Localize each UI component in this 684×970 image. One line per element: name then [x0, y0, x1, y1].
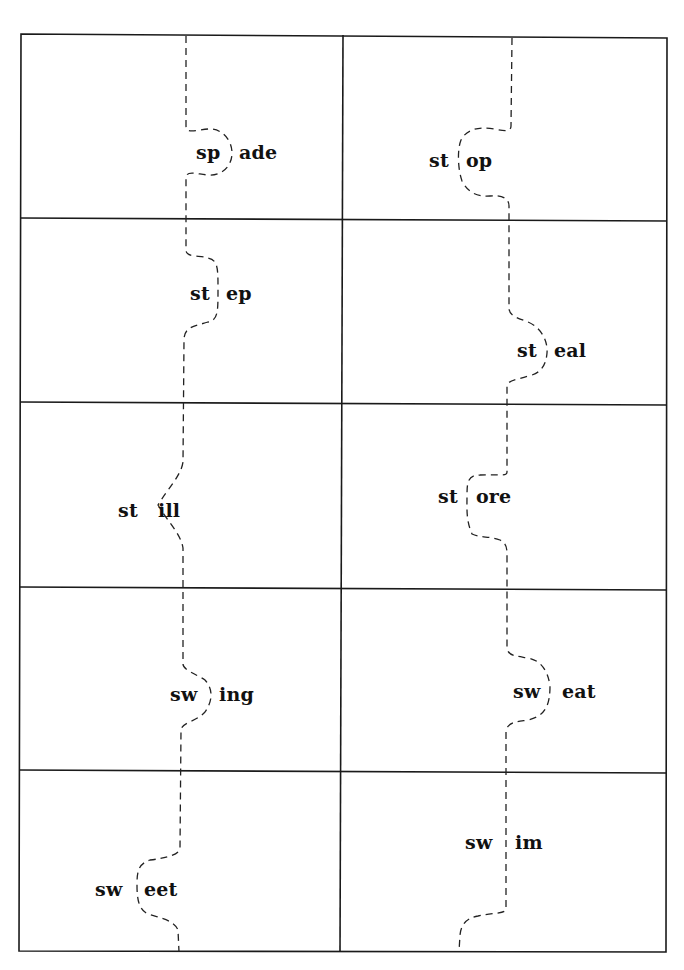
cut-line-left	[137, 36, 232, 952]
card-blend: st	[118, 501, 138, 520]
row-divider-3	[20, 587, 666, 590]
row-divider-1	[21, 218, 667, 221]
row-divider-2	[20, 402, 667, 405]
card-blend: st	[190, 284, 210, 303]
card-ending: eat	[562, 682, 596, 701]
card-ending: op	[466, 151, 492, 170]
card-ending: eal	[554, 341, 586, 360]
card-blend: sw	[513, 682, 540, 701]
card-ending: ill	[158, 501, 180, 520]
card-ending: eet	[144, 880, 178, 899]
card-blend: sw	[465, 833, 492, 852]
row-divider-4	[19, 770, 666, 773]
card-ending: ing	[219, 685, 254, 704]
card-blend: st	[429, 151, 449, 170]
card-ending: ep	[226, 284, 252, 303]
worksheet-grid	[0, 0, 684, 970]
card-ending: ade	[239, 143, 277, 162]
card-blend: sw	[95, 880, 122, 899]
card-blend: sp	[196, 143, 220, 162]
card-blend: sw	[170, 685, 197, 704]
card-ending: ore	[476, 487, 511, 506]
card-ending: im	[515, 833, 543, 852]
card-blend: st	[517, 341, 537, 360]
card-blend: st	[438, 487, 458, 506]
column-divider	[340, 35, 343, 952]
